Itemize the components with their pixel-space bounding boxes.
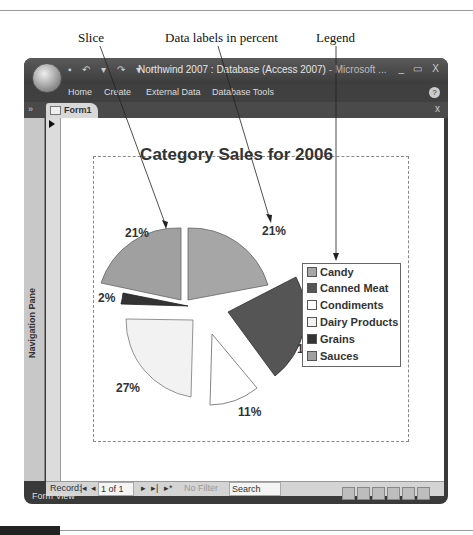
data-label-dairy-products: 27% — [116, 381, 140, 395]
legend-item-condiments: Condiments — [307, 299, 384, 311]
minimize-button[interactable]: _ — [398, 63, 404, 74]
callout-legend: Legend — [316, 30, 355, 46]
legend-item-candy: Candy — [307, 266, 354, 278]
last-record-button[interactable]: ▸| — [151, 483, 158, 493]
legend-item-sauces: Sauces — [307, 350, 359, 362]
legend-item-grains: Grains — [307, 333, 355, 345]
page-rule-bottom — [0, 530, 473, 531]
callout-data-labels: Data labels in percent — [165, 30, 278, 46]
data-label-sauces: 21% — [125, 226, 149, 240]
navigation-pane-label: Navigation Pane — [27, 288, 37, 358]
close-button[interactable]: X — [432, 63, 439, 74]
first-record-button[interactable]: |◂ — [80, 483, 87, 493]
search-input[interactable]: Search — [229, 482, 281, 496]
filter-button[interactable]: No Filter — [184, 483, 218, 493]
data-label-condiments: 11% — [238, 405, 261, 419]
callout-slice: Slice — [78, 30, 104, 46]
view-buttons — [342, 487, 430, 499]
swatch-icon — [307, 267, 317, 277]
chart-legend: Candy Canned Meat Condiments Dairy Produ… — [302, 263, 401, 367]
new-record-button[interactable]: ▸* — [164, 483, 173, 493]
office-button[interactable] — [32, 63, 62, 93]
close-document-button[interactable]: x — [435, 103, 440, 114]
layout-view-button[interactable] — [402, 487, 415, 500]
tab-external-data[interactable]: External Data — [146, 87, 201, 97]
title-bar: ▪ ↶ ▾ ↷ ▾ ⁝ Northwind 2007 : Database (A… — [24, 58, 448, 84]
data-label-candy: 21% — [262, 224, 286, 238]
maximize-button[interactable]: ▭ — [413, 63, 422, 74]
legend-item-dairy-products: Dairy Products — [307, 316, 398, 328]
ribbon-tabs: Home Create External Data Database Tools… — [24, 84, 448, 102]
pivottable-view-button[interactable] — [372, 487, 385, 500]
legend-item-canned-meat: Canned Meat — [307, 282, 388, 294]
pivotchart-view-button[interactable] — [387, 487, 400, 500]
previous-record-button[interactable]: ◂ — [91, 483, 96, 493]
swatch-icon — [307, 334, 317, 344]
current-record-arrow-icon — [49, 120, 55, 128]
tab-database-tools[interactable]: Database Tools — [212, 87, 274, 97]
datasheet-view-button[interactable] — [357, 487, 370, 500]
form-icon — [50, 106, 61, 115]
navigation-pane[interactable]: Navigation Pane — [24, 118, 45, 481]
nav-pane-toggle[interactable]: » — [28, 104, 33, 114]
window-title: Northwind 2007 : Database (Access 2007) … — [138, 64, 386, 75]
data-label-grains: 2% — [98, 291, 115, 305]
form-view-button[interactable] — [342, 487, 355, 500]
current-record-input[interactable]: 1 of 1 — [98, 482, 134, 496]
page-marker — [0, 526, 60, 535]
next-record-button[interactable]: ▸ — [141, 483, 146, 493]
tab-form1[interactable]: Form1 — [46, 103, 98, 118]
swatch-icon — [307, 283, 317, 293]
tab-home[interactable]: Home — [68, 87, 92, 97]
design-view-button[interactable] — [417, 487, 430, 500]
tab-create[interactable]: Create — [104, 87, 131, 97]
status-text: Form View — [32, 491, 75, 501]
swatch-icon — [307, 351, 317, 361]
status-bar: Form View — [24, 495, 448, 504]
help-icon[interactable]: ? — [429, 87, 440, 98]
page-rule-top — [0, 10, 473, 11]
record-selector[interactable] — [46, 118, 61, 481]
chart-title: Category Sales for 2006 — [0, 145, 473, 165]
swatch-icon — [307, 317, 317, 327]
document-tab-bar: » Form1 x — [24, 102, 448, 118]
swatch-icon — [307, 300, 317, 310]
